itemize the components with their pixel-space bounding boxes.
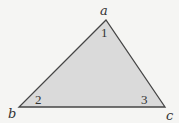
vertex-label-a: a xyxy=(100,3,108,18)
angle-label-3: 3 xyxy=(141,92,148,107)
angle-label-1: 1 xyxy=(101,25,108,40)
vertex-label-c: c xyxy=(166,108,174,123)
triangle-diagram: a b c 1 2 3 xyxy=(0,0,179,123)
vertex-label-b: b xyxy=(8,106,16,121)
angle-label-2: 2 xyxy=(35,92,42,107)
